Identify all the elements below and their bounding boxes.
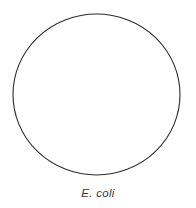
cell-outline-ellipse bbox=[13, 14, 180, 175]
cell-outline-shape bbox=[0, 0, 196, 208]
figure-caption: E. coli bbox=[0, 186, 196, 200]
figure-canvas: E. coli bbox=[0, 0, 196, 208]
